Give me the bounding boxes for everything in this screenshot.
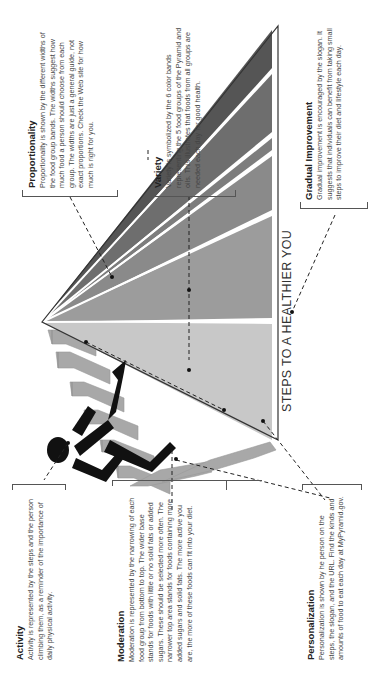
personalization-bracket-cap (302, 484, 303, 490)
proportionality-bracket (22, 196, 118, 197)
note-heading: Gradual Improvement (303, 25, 314, 200)
note-heading: Variety (152, 26, 163, 188)
variety-bracket (148, 196, 236, 197)
note-heading: Proportionality (26, 23, 37, 188)
note-body: Proportionality is shown by the differen… (38, 23, 96, 188)
activity-bracket-cap2 (65, 484, 66, 490)
note-variety: Variety Variety is symbolized by the 6 c… (152, 26, 202, 188)
moderation-bracket (112, 480, 262, 481)
note-heading: Moderation (115, 492, 126, 662)
variety-bracket-cap2 (235, 190, 236, 196)
gradual-bracket-cap2 (367, 202, 368, 208)
gradual-bracket (300, 208, 368, 209)
personalization-bracket (302, 484, 362, 485)
moderation-bracket-cap2 (226, 480, 227, 490)
gradual-bracket-cap (300, 202, 301, 208)
note-personalization: Personalization Personalization is shown… (305, 495, 346, 660)
note-body: Personalization is shown by he person on… (317, 495, 346, 660)
note-moderation: Moderation Moderation is represented by … (115, 492, 194, 662)
variety-bracket-cap (148, 190, 149, 196)
note-body: Moderation is represented by the narrowi… (127, 492, 194, 662)
slogan: STEPS TO A HEALTHIER YOU (280, 230, 294, 412)
note-body: Gradual improvement is encouraged by the… (315, 25, 344, 200)
note-gradual-improvement: Gradual Improvement Gradual improvement … (303, 25, 344, 200)
moderation-bracket-cap (112, 480, 113, 486)
note-heading: Activity (14, 492, 25, 660)
activity-bracket-cap (12, 484, 13, 490)
proportionality-bracket-cap2 (117, 190, 118, 196)
note-proportionality: Proportionality Proportionality is shown… (26, 23, 96, 188)
proportionality-bracket-cap (22, 190, 23, 196)
note-body: Activity is represented by the steps and… (26, 492, 55, 660)
personalization-bracket-cap2 (361, 484, 362, 490)
note-heading: Personalization (305, 495, 316, 660)
activity-bracket (12, 484, 66, 485)
note-body: Variety is symbolized by the 6 color ban… (164, 26, 202, 188)
note-activity: Activity Activity is represented by the … (14, 492, 55, 660)
